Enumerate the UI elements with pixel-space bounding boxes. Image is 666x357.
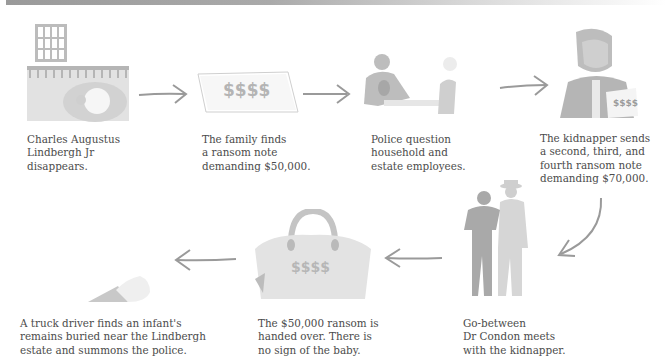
ransom-note-text: $$$$ — [223, 80, 270, 100]
curved-arrow-icon — [555, 196, 605, 260]
top-divider-bar — [6, 0, 666, 5]
infant-foot-illustration — [88, 272, 152, 304]
caption-step-6: The $50,000 ransom is handed over. There… — [258, 317, 379, 357]
police-interview-illustration — [358, 48, 468, 116]
caption-step-7: A truck driver finds an infant's remains… — [20, 317, 206, 357]
caption-step-1: Charles Augustus Lindbergh Jr disappears… — [27, 133, 120, 173]
ransom-note-illustration: $$$$ — [196, 70, 300, 114]
arrow-right-icon — [137, 82, 189, 106]
money-bag-illustration: $$$$ — [251, 209, 375, 301]
arrow-right-icon — [301, 82, 353, 106]
arrow-left-icon — [172, 248, 238, 272]
money-bag-text: $$$$ — [291, 259, 330, 275]
arrow-left-icon — [382, 246, 444, 270]
caption-step-2: The family finds a ransom note demanding… — [202, 133, 310, 173]
kidnapper-illustration: $$$$ — [556, 26, 638, 118]
caption-step-3: Police question household and estate emp… — [371, 133, 466, 173]
caption-step-4: The kidnapper sends a second, third, and… — [540, 132, 650, 185]
caption-step-5: Go-between Dr Condon meets with the kidn… — [463, 317, 565, 357]
two-men-illustration — [460, 178, 540, 300]
kidnapper-note-text: $$$$ — [613, 98, 638, 108]
nursery-illustration — [25, 22, 130, 122]
arrow-right-icon — [498, 74, 550, 98]
